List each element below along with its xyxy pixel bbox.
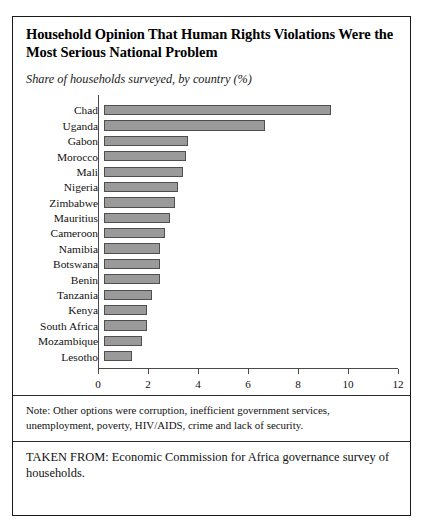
bar	[104, 274, 160, 284]
bar-row: Gabon	[13, 134, 410, 149]
x-tick-label: 0	[95, 378, 101, 390]
bar-row: Mauritius	[13, 211, 410, 226]
bar-chart: ChadUgandaGabonMoroccoMaliNigeriaZimbabw…	[13, 95, 410, 395]
category-label: Mali	[13, 167, 104, 178]
x-tick-label: 12	[392, 378, 403, 390]
bar-row: Benin	[13, 273, 410, 288]
category-label: Lesotho	[13, 352, 104, 363]
bar	[104, 228, 165, 238]
plot-area: ChadUgandaGabonMoroccoMaliNigeriaZimbabw…	[13, 95, 410, 395]
bar-track	[104, 273, 410, 288]
bar-track	[104, 350, 410, 365]
category-label: Tanzania	[13, 290, 104, 301]
bar	[104, 182, 178, 192]
bar	[104, 320, 147, 330]
category-label: Mozambique	[13, 336, 104, 347]
bar-track	[104, 196, 410, 211]
bar	[104, 243, 160, 253]
x-tick	[248, 369, 249, 374]
bar-row: Chad	[13, 103, 410, 118]
bar-row: Mozambique	[13, 334, 410, 349]
figure-source: TAKEN FROM: Economic Commission for Afri…	[13, 442, 410, 482]
bar-track	[104, 242, 410, 257]
bar	[104, 136, 188, 146]
bar-row: Lesotho	[13, 350, 410, 365]
bar	[104, 213, 170, 223]
bar-row: Zimbabwe	[13, 196, 410, 211]
category-label: Botswana	[13, 259, 104, 270]
y-axis-line	[98, 95, 99, 369]
category-label: Namibia	[13, 244, 104, 255]
category-label: Kenya	[13, 305, 104, 316]
bar	[104, 167, 183, 177]
bar-track	[104, 165, 410, 180]
bar-track	[104, 180, 410, 195]
bar-track	[104, 319, 410, 334]
figure-title: Household Opinion That Human Rights Viol…	[26, 26, 397, 61]
bar-row: Nigeria	[13, 180, 410, 195]
bar-track	[104, 288, 410, 303]
x-tick	[98, 369, 99, 374]
bar-row: Tanzania	[13, 288, 410, 303]
bar-track	[104, 119, 410, 134]
bar	[104, 197, 175, 207]
x-tick-label: 6	[245, 378, 251, 390]
bar	[104, 305, 147, 315]
bar	[104, 336, 142, 346]
bar	[104, 151, 186, 161]
category-label: Cameroon	[13, 228, 104, 239]
bar-row: Cameroon	[13, 227, 410, 242]
bar-track	[104, 150, 410, 165]
x-tick	[298, 369, 299, 374]
x-tick-label: 4	[195, 378, 201, 390]
bar-track	[104, 334, 410, 349]
category-label: Morocco	[13, 152, 104, 163]
bar-row: Kenya	[13, 303, 410, 318]
category-label: South Africa	[13, 321, 104, 332]
bar-track	[104, 211, 410, 226]
category-label: Zimbabwe	[13, 198, 104, 209]
figure-subtitle: Share of households surveyed, by country…	[26, 72, 397, 87]
bar-row: South Africa	[13, 319, 410, 334]
title-block: Household Opinion That Human Rights Viol…	[13, 17, 410, 87]
bar	[104, 290, 152, 300]
bar	[104, 105, 331, 115]
category-label: Benin	[13, 275, 104, 286]
figure-note: Note: Other options were corruption, ine…	[13, 396, 410, 440]
bar-track	[104, 103, 410, 118]
category-label: Nigeria	[13, 182, 104, 193]
x-tick-label: 2	[145, 378, 151, 390]
bar-row: Uganda	[13, 119, 410, 134]
bar-track	[104, 134, 410, 149]
x-tick-label: 8	[295, 378, 301, 390]
category-label: Gabon	[13, 136, 104, 147]
figure-panel: Household Opinion That Human Rights Viol…	[12, 16, 411, 516]
bar-row: Morocco	[13, 150, 410, 165]
bar-row: Mali	[13, 165, 410, 180]
category-label: Uganda	[13, 121, 104, 132]
bar-track	[104, 257, 410, 272]
bar	[104, 351, 132, 361]
bar-row: Namibia	[13, 242, 410, 257]
x-tick	[148, 369, 149, 374]
bar-track	[104, 303, 410, 318]
bar-rows: ChadUgandaGabonMoroccoMaliNigeriaZimbabw…	[13, 103, 410, 365]
bar-row: Botswana	[13, 257, 410, 272]
x-tick	[398, 369, 399, 374]
bar-track	[104, 227, 410, 242]
category-label: Mauritius	[13, 213, 104, 224]
bar	[104, 259, 160, 269]
x-tick	[348, 369, 349, 374]
x-tick-label: 10	[342, 378, 353, 390]
bar	[104, 120, 265, 130]
category-label: Chad	[13, 105, 104, 116]
x-tick	[198, 369, 199, 374]
